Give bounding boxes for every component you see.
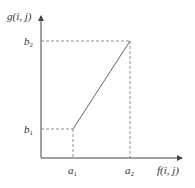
transform-line xyxy=(73,41,130,129)
a2-label: a2 xyxy=(125,164,135,178)
diagram-canvas: g(i, j) f(i, j) b2 b1 a1 a2 xyxy=(0,0,195,188)
x-axis-label: f(i, j) xyxy=(157,164,179,177)
a1-label: a1 xyxy=(68,164,78,178)
y-axis-label: g(i, j) xyxy=(7,10,32,23)
b2-label: b2 xyxy=(24,35,34,49)
b1-label: b1 xyxy=(24,123,34,137)
